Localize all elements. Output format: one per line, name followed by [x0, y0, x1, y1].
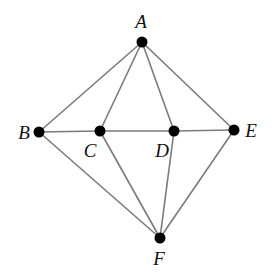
node-label-c: C [84, 140, 97, 161]
edge-bc [39, 131, 100, 132]
node-label-e: E [244, 120, 257, 141]
nodes-group [34, 37, 240, 244]
node-e [229, 125, 240, 136]
node-label-f: F [152, 248, 165, 269]
node-a [137, 37, 148, 48]
edge-ef [160, 130, 234, 238]
node-label-b: B [18, 122, 30, 143]
edge-cf [100, 131, 160, 238]
edge-de [174, 130, 234, 131]
node-c [95, 126, 106, 137]
node-label-a: A [133, 11, 147, 32]
edge-ae [142, 42, 234, 130]
node-b [34, 127, 45, 138]
edge-ac [100, 42, 142, 131]
node-label-d: D [154, 140, 169, 161]
edge-ad [142, 42, 174, 131]
edge-ab [39, 42, 142, 132]
node-f [155, 233, 166, 244]
edge-bf [39, 132, 160, 238]
edges-group [39, 42, 234, 238]
graph-diagram: ABCDEF [0, 0, 273, 278]
node-d [169, 126, 180, 137]
